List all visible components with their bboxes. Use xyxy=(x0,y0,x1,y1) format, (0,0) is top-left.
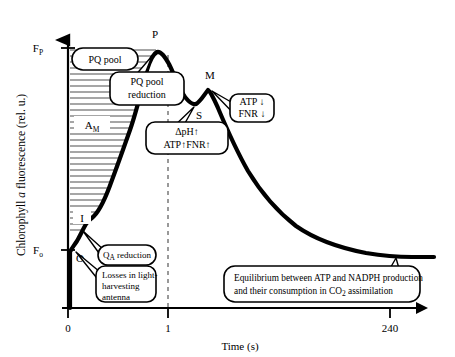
region-label-am-base: A xyxy=(85,119,93,131)
callout-pq-pool-label: PQ pool xyxy=(88,54,121,65)
callout-antenna-line2: harvesting xyxy=(102,281,140,291)
callout-qa-reduction[interactable]: QA reduction xyxy=(83,231,156,265)
x-tick-label-240: 240 xyxy=(382,322,399,334)
y-tick-labels: FP Fo xyxy=(33,42,43,259)
x-tick-labels: 0 1 240 xyxy=(65,322,399,334)
callout-dph-atp-fnr-up[interactable]: ΔpH↑ ATP↑FNR↑ xyxy=(146,107,228,154)
callout-dph-line2: ATP↑FNR↑ xyxy=(163,139,210,150)
callout-antenna-line1: Losses in light- xyxy=(102,270,158,280)
figure-canvas: FP Fo Chlorophyll a fluorescence (rel. u… xyxy=(0,0,455,357)
callout-qa-word: reduction xyxy=(117,250,151,260)
callout-equilibrium[interactable]: Equilibrium between ATP and NADPH produc… xyxy=(224,258,423,302)
svg-text:FP: FP xyxy=(33,42,43,57)
svg-text:Chlorophyll a fluorescence (re: Chlorophyll a fluorescence (rel. u.) xyxy=(15,94,28,256)
x-axis-title: Time (s) xyxy=(221,340,259,353)
callout-equilibrium-line2a: and their consumption in CO xyxy=(234,286,342,296)
svg-text:Fo: Fo xyxy=(33,244,43,259)
callout-dph-line1: ΔpH↑ xyxy=(175,126,199,137)
y-tick-fo-sub: o xyxy=(39,250,43,259)
x-tick-label-0: 0 xyxy=(65,322,71,334)
y-axis-title-before: Chlorophyll xyxy=(15,198,28,256)
callout-antenna-line3: antenna xyxy=(102,292,130,302)
point-label-s: S xyxy=(196,109,202,121)
fluorescence-induction-figure: FP Fo Chlorophyll a fluorescence (rel. u… xyxy=(0,0,455,357)
point-label-m: M xyxy=(205,69,215,81)
callout-equilibrium-line2b: assimilation xyxy=(346,286,394,296)
x-tick-label-1: 1 xyxy=(165,322,171,334)
callout-pq-pool-reduction-line1: PQ pool xyxy=(130,76,163,87)
callout-pq-pool[interactable]: PQ pool xyxy=(72,48,138,70)
point-label-p: P xyxy=(152,28,158,40)
callout-equilibrium-line1: Equilibrium between ATP and NADPH produc… xyxy=(234,273,423,283)
callout-fnr-down: FNR ↓ xyxy=(239,108,266,119)
y-tick-fp-sub: P xyxy=(39,48,43,57)
callout-pq-pool-reduction-line2: reduction xyxy=(128,89,166,100)
y-axis-title-after: fluorescence (rel. u.) xyxy=(15,94,28,192)
region-label-am-sub: M xyxy=(93,125,100,134)
x-axis-arrowhead xyxy=(416,302,428,314)
region-label-i-backdrop: I xyxy=(73,211,91,224)
region-label-am: AM xyxy=(74,116,110,134)
point-label-i-text: I xyxy=(80,212,84,224)
callout-atp-down: ATP ↓ xyxy=(240,96,265,107)
y-axis-title: Chlorophyll a fluorescence (rel. u.) xyxy=(15,94,28,256)
